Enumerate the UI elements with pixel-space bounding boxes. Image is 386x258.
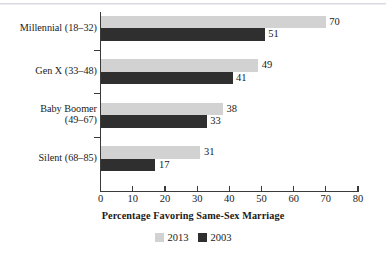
- x-tick-70: [325, 186, 326, 192]
- bar-2013-3: [101, 146, 201, 159]
- x-tick-label-0: 0: [88, 193, 114, 205]
- legend-label-2003: 2003: [211, 232, 232, 243]
- x-tick-label-40: 40: [216, 193, 242, 205]
- x-tick-80: [357, 186, 358, 192]
- bar-2003-0: [101, 28, 265, 41]
- x-tick-label-20: 20: [152, 193, 178, 205]
- chart-legend: 2013 2003: [0, 232, 386, 243]
- x-tick-30: [197, 186, 198, 192]
- x-tick-50: [261, 186, 262, 192]
- legend-item-2003: 2003: [198, 232, 232, 243]
- x-tick-label-10: 10: [120, 193, 146, 205]
- y-tick-2: [94, 93, 101, 94]
- legend-item-2013: 2013: [155, 232, 189, 243]
- legend-swatch-2013: [155, 233, 164, 242]
- bar-value-2003-2: 33: [210, 115, 221, 128]
- x-tick-40: [229, 186, 230, 192]
- x-tick-label-30: 30: [184, 193, 210, 205]
- bar-2013-0: [101, 16, 326, 29]
- x-tick-label-80: 80: [345, 193, 371, 205]
- category-label-1: Gen X (33–48): [35, 65, 97, 77]
- bar-value-2003-0: 51: [268, 28, 279, 41]
- bar-2013-1: [101, 59, 259, 72]
- bar-value-2013-1: 49: [262, 59, 273, 72]
- bar-chart: 01020304050607080 Millennial (18–32)Gen …: [0, 0, 386, 258]
- x-tick-60: [293, 186, 294, 192]
- bar-value-2013-0: 70: [329, 16, 340, 29]
- category-label-2: Baby Boomer (49–67): [40, 103, 97, 126]
- category-label-3: Silent (68–85): [38, 152, 97, 164]
- category-label-0: Millennial (18–32): [20, 22, 97, 34]
- x-axis-title: Percentage Favoring Same-Sex Marriage: [0, 210, 386, 221]
- x-tick-10: [132, 186, 133, 192]
- x-tick-label-70: 70: [313, 193, 339, 205]
- bar-value-2013-2: 38: [226, 103, 237, 116]
- bar-2003-1: [101, 72, 233, 85]
- bar-2003-3: [101, 159, 156, 172]
- y-tick-3: [94, 137, 101, 138]
- legend-swatch-2003: [198, 233, 207, 242]
- legend-label-2013: 2013: [168, 232, 189, 243]
- x-tick-0: [100, 186, 101, 192]
- bar-value-2003-3: 17: [159, 159, 170, 172]
- bar-value-2003-1: 41: [236, 72, 247, 85]
- bar-2003-2: [101, 115, 207, 128]
- y-tick-1: [94, 50, 101, 51]
- x-tick-label-50: 50: [249, 193, 275, 205]
- bar-2013-2: [101, 103, 223, 116]
- x-tick-label-60: 60: [281, 193, 307, 205]
- bar-value-2013-3: 31: [204, 146, 215, 159]
- x-tick-20: [164, 186, 165, 192]
